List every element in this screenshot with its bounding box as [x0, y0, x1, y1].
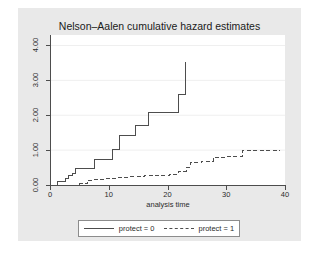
series-line-1 — [80, 150, 280, 185]
dashed-line-icon — [164, 225, 194, 232]
x-axis-title: analysis time — [50, 200, 286, 209]
page-title: Nelson–Aalen cumulative hazard estimates — [18, 20, 301, 32]
legend-label: protect = 1 — [199, 224, 235, 233]
solid-line-icon — [84, 225, 114, 232]
x-tick-label: 0 — [48, 190, 52, 199]
y-tick-label: 0.00 — [31, 178, 40, 193]
y-tick-mark — [46, 80, 50, 81]
y-tick-label: 4.00 — [31, 38, 40, 53]
series-canvas — [50, 35, 285, 185]
chart-screenshot: Nelson–Aalen cumulative hazard estimates… — [0, 0, 318, 255]
y-tick-label: 3.00 — [31, 73, 40, 88]
y-tick-mark — [46, 115, 50, 116]
y-axis-line — [50, 35, 51, 186]
x-tick-label: 20 — [163, 190, 171, 199]
y-tick-label: 1.00 — [31, 143, 40, 158]
plot-inner — [50, 35, 285, 185]
x-tick-label: 40 — [281, 190, 289, 199]
y-tick-label: 2.00 — [31, 108, 40, 123]
y-tick-mark — [46, 150, 50, 151]
legend: protect = 0 protect = 1 — [78, 220, 240, 237]
plot-area — [50, 35, 285, 185]
y-tick-mark — [46, 45, 50, 46]
legend-item-protect-0[interactable]: protect = 0 — [84, 224, 155, 233]
x-tick-label: 10 — [105, 190, 113, 199]
legend-item-protect-1[interactable]: protect = 1 — [164, 224, 235, 233]
x-tick-label: 30 — [222, 190, 230, 199]
legend-label: protect = 0 — [119, 224, 155, 233]
